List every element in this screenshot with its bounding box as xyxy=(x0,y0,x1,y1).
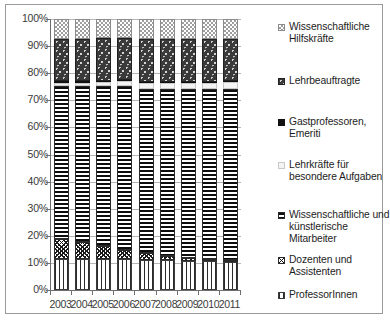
bar-segment xyxy=(181,89,196,258)
bar-segment xyxy=(160,89,175,256)
bar-segment xyxy=(181,19,196,39)
bar-segment xyxy=(181,258,196,261)
bar-segment xyxy=(160,260,175,290)
bar-segment xyxy=(75,86,90,242)
legend-item[interactable]: Dozenten und Assistenten xyxy=(278,254,390,278)
bar-segment xyxy=(181,39,196,82)
y-axis-tick xyxy=(46,209,50,210)
chart-frame: 0%10%20%30%40%50%60%70%80%90%100% 200320… xyxy=(5,4,383,314)
y-axis-tick xyxy=(46,182,50,183)
y-axis-tick xyxy=(46,19,50,20)
bar-column[interactable] xyxy=(202,19,217,290)
legend-item-label: Wissenschaftliche und künstlerische Mita… xyxy=(289,209,390,246)
legend-item[interactable]: Lehrkräfte für besondere Aufgaben xyxy=(278,159,390,183)
y-axis-tick-label: 80% xyxy=(8,66,48,78)
bar-segment xyxy=(54,81,69,83)
legend-key-professorinnen-icon xyxy=(278,292,285,299)
y-axis-tick-label: 90% xyxy=(8,39,48,51)
legend-item[interactable]: Gastprofessoren, Emeriti xyxy=(278,116,390,140)
legend-item[interactable]: Lehrbeauftragte xyxy=(278,75,390,87)
bar-segment xyxy=(54,86,69,239)
x-axis-tick-label: 2011 xyxy=(214,298,244,310)
y-axis-tick-label: 40% xyxy=(8,175,48,187)
y-axis-tick-label: 50% xyxy=(8,148,48,160)
bar-column[interactable] xyxy=(223,19,238,290)
bar-segment xyxy=(139,89,154,254)
bar-segment xyxy=(223,82,238,89)
plot-area xyxy=(50,19,240,290)
y-axis-tick-label: 10% xyxy=(8,256,48,268)
y-axis-tick-label: 0% xyxy=(8,283,48,295)
bar-segment xyxy=(181,83,196,89)
bar-segment xyxy=(139,83,154,88)
bar-segment xyxy=(96,82,111,86)
bar-segment xyxy=(139,253,154,260)
legend-key-dozenten-icon xyxy=(278,257,285,264)
bar-segment xyxy=(96,259,111,290)
bar-column[interactable] xyxy=(160,19,175,290)
legend-key-hilfskraefte-icon xyxy=(278,24,285,31)
x-axis-tick xyxy=(198,291,199,295)
bar-segment xyxy=(202,19,217,39)
bar-segment xyxy=(54,83,69,86)
x-axis-tick xyxy=(92,291,93,295)
legend-item-label: Gastprofessoren, Emeriti xyxy=(289,116,390,140)
bar-segment xyxy=(160,256,175,260)
bar-segment xyxy=(160,83,175,89)
y-axis-tick xyxy=(46,236,50,237)
bar-segment xyxy=(75,39,90,81)
x-axis-tick xyxy=(156,291,157,295)
bar-segment xyxy=(75,259,90,290)
y-axis-tick xyxy=(46,100,50,101)
x-axis-tick xyxy=(50,291,51,295)
bar-segment xyxy=(117,19,132,38)
x-axis: 200320042005200620072008200920102011 xyxy=(50,291,241,313)
bar-segment xyxy=(223,19,238,39)
legend-key-lehrkraefte-icon xyxy=(278,162,285,169)
bar-segment xyxy=(181,261,196,290)
bar-column[interactable] xyxy=(54,19,69,290)
bar-segment xyxy=(75,242,90,259)
y-axis-tick-label: 70% xyxy=(8,93,48,105)
bar-segment xyxy=(139,19,154,39)
bar-column[interactable] xyxy=(117,19,132,290)
bar-column[interactable] xyxy=(139,19,154,290)
bar-column[interactable] xyxy=(181,19,196,290)
chart-legend: Wissenschaftliche HilfskräfteLehrbeauftr… xyxy=(278,13,390,303)
bar-segment xyxy=(139,39,154,82)
y-axis-tick xyxy=(46,73,50,74)
y-axis-tick-label: 20% xyxy=(8,229,48,241)
bar-segment xyxy=(117,250,132,260)
bar-segment xyxy=(96,86,111,246)
legend-item[interactable]: Wissenschaftliche Hilfskräfte xyxy=(278,21,390,45)
y-axis-tick xyxy=(46,127,50,128)
x-axis-tick xyxy=(219,291,220,295)
bar-segment xyxy=(96,38,111,81)
bar-segment xyxy=(202,83,217,89)
bar-column[interactable] xyxy=(96,19,111,290)
x-axis-tick xyxy=(240,291,241,295)
bar-segment xyxy=(117,86,132,249)
legend-item[interactable]: ProfessorInnen xyxy=(278,289,390,301)
x-axis-tick xyxy=(134,291,135,295)
bar-segment xyxy=(160,39,175,82)
legend-item-label: Lehrkräfte für besondere Aufgaben xyxy=(289,159,390,183)
bar-segment xyxy=(202,261,217,290)
bar-segment xyxy=(75,83,90,87)
bar-segment xyxy=(96,19,111,38)
bar-column[interactable] xyxy=(75,19,90,290)
bar-segment xyxy=(54,39,69,81)
bar-segment xyxy=(54,239,69,259)
y-axis: 0%10%20%30%40%50%60%70%80%90%100% xyxy=(6,5,48,304)
y-axis-tick-label: 60% xyxy=(8,120,48,132)
y-axis-tick xyxy=(46,155,50,156)
legend-item[interactable]: Wissenschaftliche und künstlerische Mita… xyxy=(278,209,390,246)
x-axis-tick xyxy=(177,291,178,295)
legend-key-lehrbeauftragte-icon xyxy=(278,78,285,85)
bar-segment xyxy=(202,259,217,261)
bar-segment xyxy=(117,259,132,290)
legend-item-label: Lehrbeauftragte xyxy=(289,75,360,87)
bar-segment xyxy=(202,39,217,81)
bar-segment xyxy=(223,89,238,260)
bar-segment xyxy=(223,262,238,290)
